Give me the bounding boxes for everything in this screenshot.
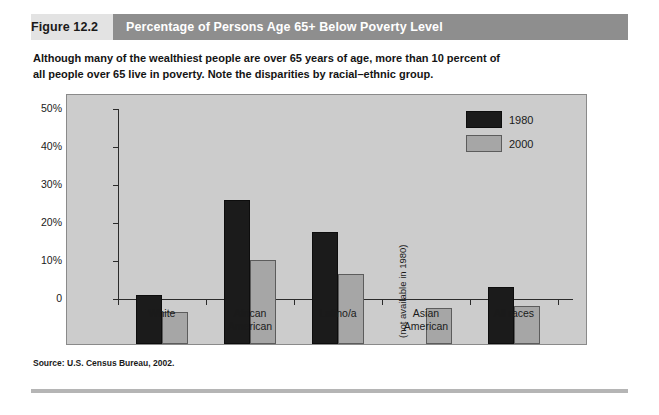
figure-header: Figure 12.2 Percentage of Persons Age 65… bbox=[31, 14, 628, 40]
legend-label-2000: 2000 bbox=[509, 138, 533, 150]
x-tick-0 bbox=[118, 300, 119, 305]
y-tick-label-40: 40% bbox=[41, 140, 62, 152]
legend-swatch-2000 bbox=[466, 135, 502, 152]
y-tick-label-30: 30% bbox=[41, 178, 62, 190]
chart-legend: 1980 2000 bbox=[466, 111, 576, 159]
legend-item-2000[interactable]: 2000 bbox=[466, 135, 576, 152]
x-tick-5 bbox=[558, 300, 559, 305]
x-label-african-american-line2: American bbox=[195, 320, 305, 333]
x-label-all-races-line1: All races bbox=[459, 307, 569, 320]
x-tick-3 bbox=[382, 300, 383, 305]
figure-caption: Although many of the wealthiest people a… bbox=[33, 50, 503, 82]
x-tick-1 bbox=[206, 300, 207, 305]
y-tick-label-20: 20% bbox=[41, 216, 62, 228]
chart-panel: 50% 40% 30% 20% 10% 0 White African Ame bbox=[66, 94, 587, 345]
x-label-asian-american-line2: American bbox=[371, 320, 481, 333]
legend-swatch-1980 bbox=[466, 111, 502, 128]
x-tick-2 bbox=[294, 300, 295, 305]
figure-number-label: Figure 12.2 bbox=[31, 14, 113, 40]
legend-label-1980: 1980 bbox=[509, 114, 533, 126]
y-axis-line bbox=[118, 109, 119, 300]
y-tick-label-10: 10% bbox=[41, 254, 62, 266]
source-note: Source: U.S. Census Bureau, 2002. bbox=[33, 358, 174, 368]
bar-latino-1980[interactable] bbox=[312, 232, 338, 344]
figure-title: Percentage of Persons Age 65+ Below Pove… bbox=[113, 14, 628, 40]
y-tick-label-0: 0 bbox=[56, 292, 62, 304]
x-tick-4 bbox=[470, 300, 471, 305]
y-tick-label-50: 50% bbox=[41, 102, 62, 114]
legend-item-1980[interactable]: 1980 bbox=[466, 111, 576, 128]
bottom-divider bbox=[31, 389, 628, 393]
x-label-all-races: All races bbox=[459, 307, 569, 320]
